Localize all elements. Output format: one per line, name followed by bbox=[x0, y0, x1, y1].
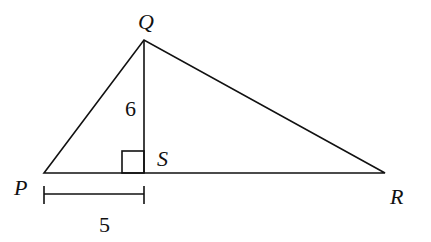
vertex-label-s: S bbox=[157, 146, 168, 171]
length-label-qs: 6 bbox=[125, 96, 136, 121]
triangle-diagram: Q 6 S P R 5 bbox=[0, 0, 431, 242]
length-label-ps: 5 bbox=[99, 212, 110, 237]
right-angle-marker bbox=[122, 151, 144, 173]
vertex-label-q: Q bbox=[138, 9, 154, 34]
triangle-pqr bbox=[44, 40, 385, 173]
vertex-label-p: P bbox=[13, 175, 27, 200]
vertex-label-r: R bbox=[389, 184, 404, 209]
